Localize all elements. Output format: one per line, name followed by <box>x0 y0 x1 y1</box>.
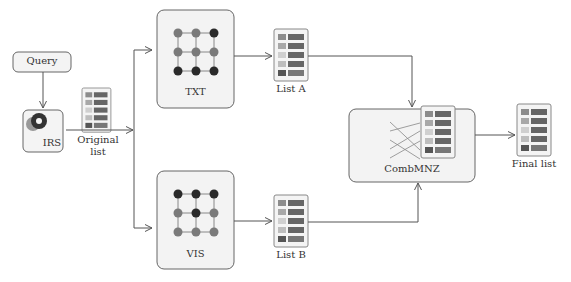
final-list-icon <box>517 104 551 156</box>
list-b-label: List B <box>266 249 316 260</box>
combmnz-label: CombMNZ <box>349 163 475 174</box>
original-list-icon <box>82 88 111 132</box>
list-a-label: List A <box>266 83 316 94</box>
combmnz-list-right-icon <box>421 106 455 158</box>
list-a-icon <box>274 29 308 81</box>
irs-label: IRS <box>40 137 64 148</box>
vis-label: VIS <box>157 248 234 259</box>
final-list-label: Final list <box>504 158 564 169</box>
txt-label: TXT <box>157 86 234 97</box>
txt-node-grid-icon <box>174 29 219 76</box>
list-b-icon <box>274 195 308 247</box>
vis-node-grid-icon <box>174 190 219 237</box>
query-label: Query <box>13 55 71 66</box>
original-list-label: Original list <box>76 134 120 158</box>
